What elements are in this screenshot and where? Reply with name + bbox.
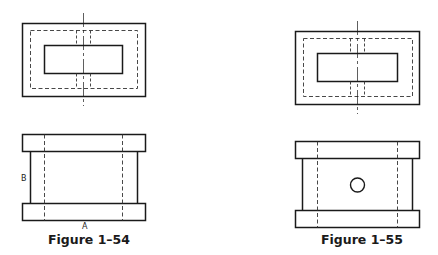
bottom-flange xyxy=(296,211,420,228)
figure-caption-1-55: Figure 1–55 xyxy=(321,232,403,247)
figure-1-55-top-view xyxy=(296,21,420,114)
figure-1-54-top-view xyxy=(23,13,146,106)
technical-drawing xyxy=(0,0,438,255)
figure-1-54-front-view xyxy=(23,135,146,221)
figure-caption-1-54: Figure 1–54 xyxy=(48,232,130,247)
dimension-label-a: A xyxy=(82,222,87,231)
top-flange xyxy=(23,135,146,152)
hole xyxy=(351,178,365,192)
top-flange xyxy=(296,142,420,159)
bottom-flange xyxy=(23,204,146,221)
dimension-label-b: B xyxy=(21,174,27,183)
figure-1-55-front-view xyxy=(296,142,420,228)
